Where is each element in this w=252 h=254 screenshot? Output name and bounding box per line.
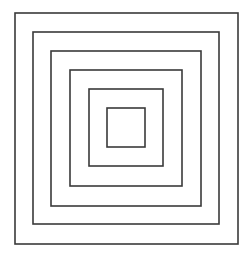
squares-group [15, 13, 238, 244]
concentric-squares-diagram [0, 0, 252, 254]
square-3 [51, 51, 201, 206]
square-5 [89, 89, 163, 166]
square-2 [33, 32, 219, 224]
square-4 [70, 70, 182, 186]
square-1 [15, 13, 238, 244]
square-6 [107, 108, 145, 147]
